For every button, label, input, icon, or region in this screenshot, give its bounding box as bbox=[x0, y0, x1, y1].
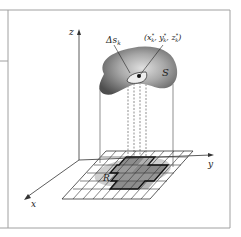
z-axis-label: z bbox=[68, 27, 74, 37]
patch-label: Δsk bbox=[105, 35, 121, 46]
x-axis: x bbox=[24, 160, 79, 209]
y-axis-arrow-icon bbox=[208, 153, 214, 157]
point-label: (x*k, y*k, z*k) bbox=[144, 32, 181, 43]
y-axis-label: y bbox=[207, 159, 214, 169]
z-axis-arrow-icon bbox=[77, 29, 81, 35]
z-axis: z bbox=[68, 27, 81, 160]
x-axis-label: x bbox=[31, 199, 36, 209]
surface-integral-diagram: R z y x S Δsk bbox=[0, 0, 241, 237]
surface-s: S bbox=[99, 47, 177, 95]
surface-label: S bbox=[162, 67, 169, 78]
region-label: R bbox=[102, 173, 110, 183]
